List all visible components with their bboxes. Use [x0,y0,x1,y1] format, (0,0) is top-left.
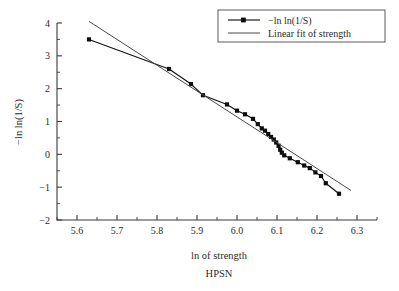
data-point-marker [296,160,300,164]
chart-caption: HPSN [206,268,233,279]
x-tick-label: 6.1 [271,225,284,236]
x-tick-label: 6.2 [311,225,324,236]
data-point-marker [319,174,323,178]
legend-label: Linear fit of strength [268,28,351,39]
data-point-marker [256,122,260,126]
legend-sample-marker [241,18,246,23]
data-point-marker [282,153,286,157]
data-series-group [87,21,351,195]
x-tick-label: 5.9 [191,225,204,236]
data-point-marker [288,156,292,160]
x-tick-label: 5.7 [111,225,124,236]
chart-figure: 5.65.75.85.96.06.16.26.3−2−101234 −ln ln… [0,0,399,291]
data-line [89,39,339,193]
data-point-marker [308,166,312,170]
data-point-marker [251,117,255,121]
data-point-marker [243,112,247,116]
x-tick-label: 5.6 [71,225,84,236]
y-tick-label: 2 [45,83,50,94]
y-tick-label: −2 [39,215,50,226]
data-point-marker [313,170,317,174]
axes-group: 5.65.75.85.96.06.16.26.3−2−101234 [39,18,377,237]
x-tick-label: 5.8 [151,225,164,236]
data-point-marker [87,37,91,41]
data-point-marker [189,82,193,86]
chart-legend: −ln ln(1/S)Linear fit of strength [218,10,385,42]
y-tick-label: 4 [45,18,50,29]
data-point-marker [324,181,328,185]
x-tick-label: 6.0 [231,225,244,236]
data-point-marker [235,109,239,113]
data-point-marker [337,192,341,196]
legend-label: −ln ln(1/S) [268,15,312,27]
data-point-marker [302,163,306,167]
y-tick-label: −1 [39,182,50,193]
weibull-plot-svg: 5.65.75.85.96.06.16.26.3−2−101234 −ln ln… [0,0,399,291]
y-tick-label: 3 [45,50,50,61]
y-tick-label: 0 [45,149,50,160]
data-point-marker [167,67,171,71]
data-point-marker [225,102,229,106]
x-axis-title: ln of strength [191,250,248,261]
y-axis-title: −ln ln(1/S) [13,99,25,145]
axis-spines [57,23,377,220]
fit-line [89,21,351,190]
x-tick-label: 6.3 [351,225,364,236]
y-tick-label: 1 [45,116,50,127]
